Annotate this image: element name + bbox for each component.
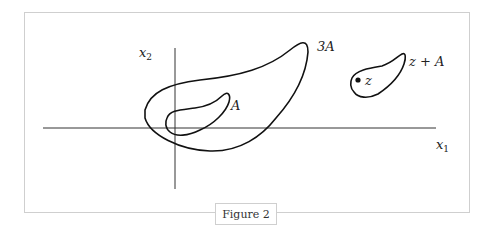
x2-axis-label: x2 [139, 46, 152, 62]
x1-axis-label: x1 [436, 138, 449, 154]
set-A-label: A [231, 99, 240, 112]
set-z-plus-A-outline [351, 54, 406, 98]
set-z-plus-A-label: z + A [409, 55, 444, 68]
figure-caption: Figure 2 [215, 203, 277, 225]
point-z-dot [355, 77, 360, 82]
point-z-label: z [365, 74, 372, 87]
set-3A-label: 3A [317, 40, 335, 53]
set-3A-outline [145, 43, 308, 151]
